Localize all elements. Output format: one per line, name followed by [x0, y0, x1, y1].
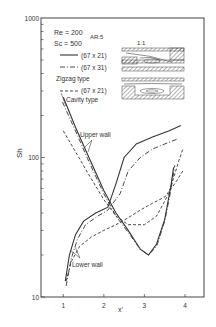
legend-group-zigzag: Zigzag type	[56, 75, 90, 83]
x-tick-label: 2	[102, 302, 106, 309]
y-axis-ticks: 101001000	[25, 15, 45, 301]
series-line	[63, 102, 175, 255]
sherwood-number-chart: 101001000 1234 Sh x' Re = 200 Sc = 500 A…	[0, 0, 216, 327]
legend-param-sc: Sc = 500	[54, 40, 82, 47]
legend-entry-zigzag-21: (67 x 21)	[81, 52, 107, 60]
legend-scale: 1:1	[137, 40, 146, 46]
legend-entry-zigzag-31: (67 x 31)	[81, 64, 107, 72]
cavity-channel-diagram	[122, 78, 184, 99]
legend-param-re: Re = 200	[54, 29, 83, 36]
legend-aspect-ratio: AR:5	[90, 34, 104, 40]
y-tick-label: 1000	[25, 15, 40, 22]
x-axis-ticks: 1234	[61, 294, 187, 309]
x-tick-label: 3	[143, 302, 147, 309]
y-tick-label: 10	[32, 294, 40, 301]
x-tick-label: 1	[61, 302, 65, 309]
legend-entry-cavity-21: (67 x 21)	[81, 87, 107, 95]
x-tick-label: 4	[183, 302, 187, 309]
data-series	[63, 97, 183, 286]
y-axis-label: Sh	[15, 148, 24, 158]
annotation-lower-wall: Lower wall	[72, 261, 103, 268]
legend: Re = 200 Sc = 500 AR:5 1:1 (67 x 21) (67…	[54, 29, 184, 106]
annotation-upper-wall: Upper wall	[80, 131, 111, 139]
series-line	[63, 131, 183, 225]
zigzag-channel-diagram	[122, 48, 184, 71]
legend-group-cavity: Cavity type	[66, 96, 99, 104]
x-axis-label: x'	[118, 306, 123, 313]
y-tick-label: 100	[28, 154, 39, 161]
